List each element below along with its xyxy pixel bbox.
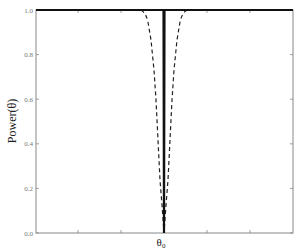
power-chart: 0.0 0.2 0.4 0.6 0.8 1.0 Power(θ) θ0 [0, 0, 302, 252]
y-tick-label: 0.2 [24, 185, 33, 193]
y-tick-label: 0.6 [24, 96, 33, 104]
x-tick-label-theta0: θ0 [157, 236, 166, 250]
y-tick-label: 0.0 [24, 230, 33, 238]
y-axis-label: Power(θ) [5, 99, 19, 143]
y-tick-labels: 0.0 0.2 0.4 0.6 0.8 1.0 [24, 7, 33, 238]
y-tick-label: 0.4 [24, 140, 33, 148]
y-tick-label: 0.8 [24, 51, 33, 59]
y-tick-label: 1.0 [24, 7, 33, 15]
